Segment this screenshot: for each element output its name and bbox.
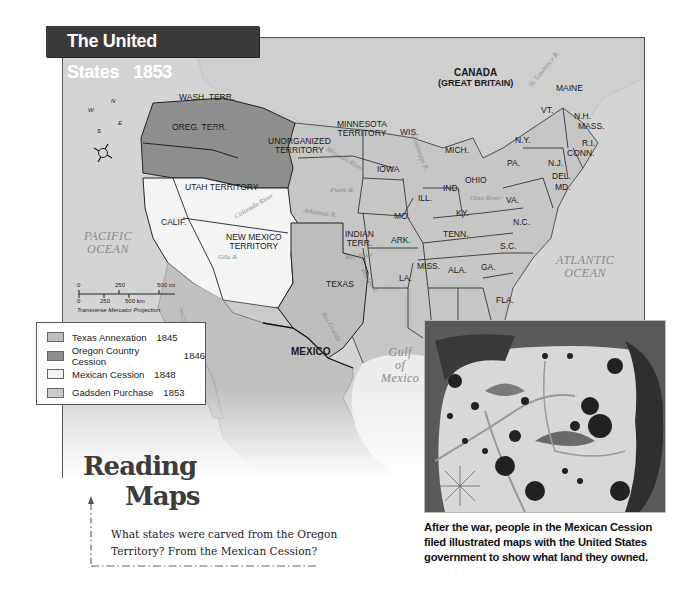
label-conn: CONN. <box>567 149 594 158</box>
legend-item-gadsden: Gadsden Purchase1853 <box>47 384 205 403</box>
label-indian-terr: INDIANTERR. <box>345 230 374 248</box>
label-utah-territory: UTAH TERRITORY <box>185 183 259 192</box>
label-canada: CANADA (GREAT BRITAIN) <box>438 68 513 88</box>
label-texas: TEXAS <box>326 280 354 289</box>
label-del: DEL. <box>552 172 571 181</box>
label-nc: N.C. <box>513 218 530 227</box>
label-unorganized-territory: UNORGANIZEDTERRITORY <box>268 137 331 155</box>
label-ind: IND. <box>443 184 460 193</box>
label-iowa: IOWA <box>377 165 399 174</box>
compass-west: W <box>88 107 94 113</box>
label-ill: ILL. <box>418 194 432 203</box>
label-sc: S.C. <box>500 242 517 251</box>
reading-maps-line1: Reading <box>83 451 199 481</box>
label-mich: MICH. <box>445 146 469 155</box>
label-ohio: OHIO <box>465 176 487 185</box>
label-maine: MAINE <box>556 84 583 93</box>
label-pacific-ocean: PACIFICOCEAN <box>84 230 132 256</box>
swatch-mexican-cession <box>47 369 64 379</box>
map-title: The United States1853 <box>46 26 259 57</box>
label-mexico: MEXICO <box>291 347 330 358</box>
label-gila-river: Gila R. <box>218 253 238 261</box>
scale-mi-250: 250 <box>115 282 125 288</box>
swatch-texas <box>47 332 64 342</box>
label-md: MD. <box>555 183 571 192</box>
compass-north: N <box>111 98 115 104</box>
label-mass: MASS. <box>578 122 604 131</box>
illustrated-map-caption: After the war, people in the Mexican Ces… <box>424 520 674 565</box>
illustrated-land-map <box>424 320 666 513</box>
compass-east: E <box>118 120 122 126</box>
map-title-year: 1853 <box>133 62 172 82</box>
reading-maps-heading: Reading Maps <box>83 451 199 511</box>
label-calif: CALIF. <box>161 218 187 227</box>
scale-mi-500: 500 mi <box>157 282 175 288</box>
legend-item-texas: Texas Annexation1845 <box>47 328 205 347</box>
label-tenn: TENN. <box>443 230 469 239</box>
label-minnesota-territory: MINNESOTATERRITORY <box>337 120 387 138</box>
label-la: LA. <box>399 274 412 283</box>
label-atlantic-ocean: ATLANTICOCEAN <box>556 254 614 280</box>
label-wash-terr: WASH. TERR. <box>179 93 234 102</box>
label-nj: N.J. <box>548 159 563 168</box>
illustrated-map-image <box>425 321 665 512</box>
label-new-mexico-territory: NEW MEXICOTERRITORY <box>226 233 282 251</box>
label-gulf-of-mexico: GulfofMexico <box>381 346 419 386</box>
scale-km-250: 250 <box>100 298 110 304</box>
label-platte-river: Platte R. <box>330 186 355 194</box>
scale-mi-0: 0 <box>77 282 80 288</box>
label-mo: MO. <box>394 212 410 221</box>
label-fla: FLA. <box>496 296 514 305</box>
label-ohio-river: Ohio River <box>470 194 501 202</box>
reading-maps-question: What states were carved from the Oregon … <box>111 526 351 560</box>
label-ga: GA. <box>481 263 496 272</box>
label-ky: KY. <box>456 209 469 218</box>
label-pa: PA. <box>507 159 520 168</box>
legend-item-oregon: Oregon Country Cession1846 <box>47 347 205 366</box>
label-ark: ARK. <box>391 236 411 245</box>
legend-item-mexican-cession: Mexican Cession1848 <box>47 365 205 384</box>
swatch-gadsden <box>47 388 64 398</box>
label-miss: MISS. <box>417 262 440 271</box>
scale-projection: Transverse Mercator Projection <box>77 307 160 313</box>
scale-km-0: 0 <box>77 298 80 304</box>
compass-south: S <box>97 128 101 134</box>
label-ala: ALA. <box>448 266 466 275</box>
reading-maps-line2: Maps <box>125 481 199 511</box>
label-va: VA. <box>506 196 519 205</box>
label-nh: N.H. <box>574 112 591 121</box>
label-ny: N.Y. <box>515 136 530 145</box>
label-vt: VT. <box>541 106 553 115</box>
swatch-oregon <box>47 351 64 361</box>
map-legend: Texas Annexation1845 Oregon Country Cess… <box>36 322 206 405</box>
label-ri: R.I. <box>582 139 595 148</box>
scale-km-500: 500 km <box>125 298 145 304</box>
